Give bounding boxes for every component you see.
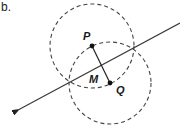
point-Q-label: Q bbox=[116, 84, 125, 96]
point-Q-dot bbox=[108, 81, 113, 86]
bisector-line bbox=[19, 23, 180, 110]
point-P-dot bbox=[90, 44, 95, 49]
point-M-label: M bbox=[89, 73, 98, 85]
diagram-canvas: b. P Q M bbox=[0, 0, 180, 126]
point-P-label: P bbox=[83, 30, 90, 42]
geometry-figure bbox=[0, 0, 180, 126]
